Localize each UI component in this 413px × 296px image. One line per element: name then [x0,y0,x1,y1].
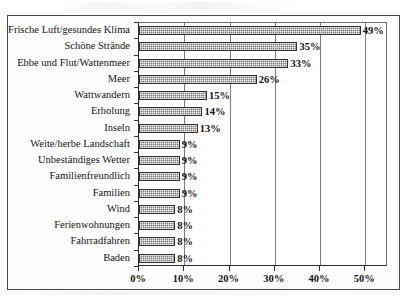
bar[interactable] [139,75,257,84]
bar[interactable] [139,140,180,149]
bar[interactable] [139,221,175,230]
bar[interactable] [139,189,180,198]
bar-row [139,88,386,104]
category-label: Frische Luft/gesundes Klima [8,22,134,38]
bar-row [139,153,386,169]
x-axis-tick-label: 20% [218,272,239,286]
bar-value-label: 9% [182,137,198,152]
category-label: Wattwandern [8,87,134,103]
bar-value-label: 49% [363,23,384,38]
bar-row [139,218,386,234]
bar[interactable] [139,237,175,246]
bar-row [139,23,386,39]
bar-row [139,202,386,218]
x-axis-tick [138,266,139,271]
bar-row [139,56,386,72]
bar-value-label: 8% [177,234,193,249]
bar-row [139,137,386,153]
category-label: Familien [8,185,134,201]
bar[interactable] [139,205,175,214]
bar[interactable] [139,107,202,116]
bar[interactable] [139,59,288,68]
bar[interactable] [139,254,175,263]
bar-row [139,121,386,137]
category-label: Familienfreundlich [8,168,134,184]
category-label: Fahrradfahren [8,233,134,249]
x-axis-tick-label: 30% [263,272,284,286]
bar[interactable] [139,124,198,133]
category-label: Ferienwohnungen [8,217,134,233]
bar-value-label: 9% [182,153,198,168]
bar-row [139,39,386,55]
bar-value-label: 14% [204,104,225,119]
bar-value-label: 33% [290,56,311,71]
bar-value-label: 9% [182,186,198,201]
plot-area [138,22,387,266]
x-axis-tick [183,266,184,271]
bar-value-label: 35% [299,39,320,54]
bar[interactable] [139,172,180,181]
bar-value-label: 26% [259,72,280,87]
bar-value-label: 13% [200,121,221,136]
category-label: Ebbe und Flut/Wattenmeer [8,55,134,71]
x-axis-tick-label: 40% [309,272,330,286]
x-axis-tick [229,266,230,271]
bar-value-label: 8% [177,251,193,266]
bar-row [139,169,386,185]
category-label: Meer [8,71,134,87]
bar-row [139,234,386,250]
x-axis-tick [364,266,365,271]
category-label: Weite/herbe Landschaft [8,136,134,152]
x-axis-tick [319,266,320,271]
category-label: Wind [8,201,134,217]
bar-row [139,251,386,267]
x-axis-tick-label: 50% [354,272,375,286]
bar[interactable] [139,42,297,51]
horizontal-bar-chart: Frische Luft/gesundes KlimaSchöne Stränd… [0,0,413,296]
x-axis-tick-label: 10% [173,272,194,286]
category-label: Baden [8,250,134,266]
bar-value-label: 8% [177,202,193,217]
category-label: Unbeständiges Wetter [8,152,134,168]
x-axis-tick-label: 0% [130,272,146,286]
bar[interactable] [139,26,361,35]
category-label: Inseln [8,120,134,136]
category-label: Schöne Strände [8,38,134,54]
bar-value-label: 8% [177,218,193,233]
bar[interactable] [139,91,207,100]
category-label: Erholung [8,103,134,119]
bar-value-label: 15% [209,88,230,103]
x-axis-tick [274,266,275,271]
bar-row [139,104,386,120]
bar[interactable] [139,156,180,165]
bar-value-label: 9% [182,169,198,184]
category-axis-labels: Frische Luft/gesundes KlimaSchöne Stränd… [8,22,134,266]
bar-row [139,186,386,202]
